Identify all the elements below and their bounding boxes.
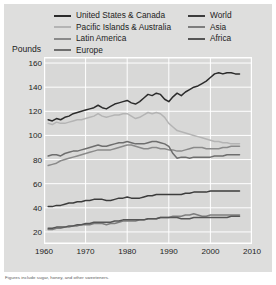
legend-item-label: Asia [210,22,226,34]
y-tick-label: 80 [18,155,42,164]
legend-item-label: United States & Canada [76,10,165,22]
x-tick-label: 1960 [27,247,61,256]
y-tick-label: 60 [18,179,42,188]
legend-item[interactable]: Europe [54,45,182,57]
y-tick-label: 40 [18,203,42,212]
y-tick-label: 20 [18,227,42,236]
legend-item-label: Latin America [76,33,126,45]
legend-line-swatch-icon [54,26,71,28]
chart-footnote: Figures include sugar, honey, and other … [5,275,109,280]
y-tick-label: 140 [18,83,42,92]
legend-item[interactable]: Pacific Islands & Australia [54,22,182,34]
legend-item[interactable]: Latin America [54,33,182,45]
legend-item[interactable]: United States & Canada [54,10,182,22]
legend-item-label: Europe [76,45,103,57]
plot-svg [44,57,252,244]
legend-line-swatch-icon [188,26,205,28]
legend-item[interactable]: World [188,10,272,22]
y-axis-title: Pounds [12,44,41,54]
legend-line-swatch-icon [54,15,71,17]
legend-item[interactable]: Africa [188,33,272,45]
legend-item-label: Africa [210,33,231,45]
x-tick-label: 1970 [69,247,103,256]
legend-column-right: WorldAsiaAfrica [188,10,272,45]
legend-item[interactable]: Asia [188,22,272,34]
y-tick-label: 160 [18,59,42,68]
chart-figure: United States & CanadaPacific Islands & … [0,0,276,285]
legend-item-label: World [210,10,232,22]
y-tick-label: 100 [18,131,42,140]
legend-line-swatch-icon [188,38,205,40]
y-axis-ticks: 20406080100120140160 [14,57,42,244]
chart-legend: United States & CanadaPacific Islands & … [46,10,272,56]
x-tick-label: 1990 [152,247,186,256]
x-tick-label: 2010 [235,247,269,256]
legend-item-label: Pacific Islands & Australia [76,22,171,34]
x-axis-ticks: 196019701980199020002010 [44,247,252,259]
x-tick-label: 2000 [193,247,227,256]
legend-line-swatch-icon [54,49,71,51]
plot-area [44,57,252,244]
legend-column-left: United States & CanadaPacific Islands & … [54,10,182,56]
y-tick-label: 120 [18,107,42,116]
legend-line-swatch-icon [54,38,71,40]
x-tick-label: 1980 [110,247,144,256]
legend-line-swatch-icon [188,15,205,17]
